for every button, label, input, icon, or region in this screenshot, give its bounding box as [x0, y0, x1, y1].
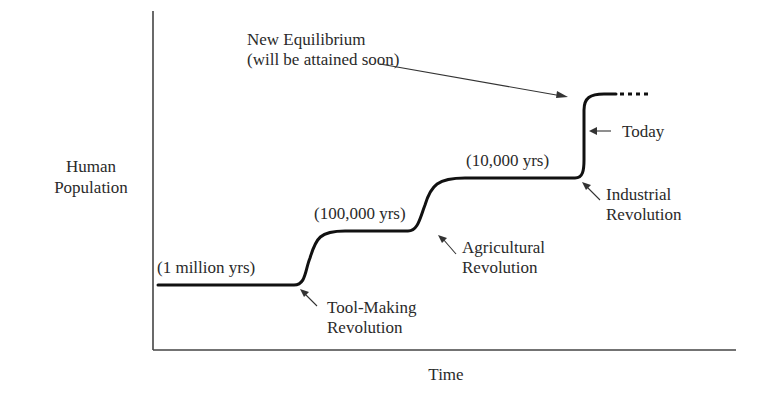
industrial-label-line2: Revolution — [606, 205, 682, 224]
agricultural-label-line1: Agricultural — [462, 238, 545, 257]
today-label: Today — [622, 122, 665, 141]
plateau-label-3: (10,000 yrs) — [466, 151, 549, 170]
plateau-label-1: (1 million yrs) — [157, 258, 255, 277]
toolmaking-label-line2: Revolution — [327, 318, 403, 337]
equilibrium-label-line1: New Equilibrium — [247, 30, 366, 49]
toolmaking-label-line1: Tool-Making — [327, 298, 417, 317]
x-axis-label: Time — [428, 365, 463, 384]
agricultural-arrow — [443, 239, 456, 254]
agricultural-label-line2: Revolution — [462, 258, 538, 277]
equilibrium-label-line2: (will be attained soon) — [247, 50, 400, 69]
population-diagram: Human Population Time (1 million yrs) (1… — [0, 0, 770, 404]
toolmaking-arrowhead — [300, 289, 309, 297]
y-axis-label-line1: Human — [66, 157, 117, 176]
industrial-label-line1: Industrial — [606, 185, 671, 204]
industrial-arrow — [586, 186, 600, 200]
today-arrowhead — [589, 127, 597, 135]
industrial-arrowhead — [582, 182, 591, 190]
plateau-label-2: (100,000 yrs) — [314, 204, 406, 223]
y-axis-label-line2: Population — [54, 178, 128, 197]
equilibrium-arrow — [380, 64, 562, 96]
population-curve — [158, 94, 616, 285]
equilibrium-arrowhead — [556, 91, 568, 98]
